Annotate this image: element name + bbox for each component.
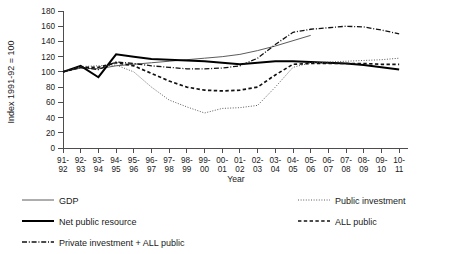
- x-tick-label-top: 93-: [92, 156, 104, 165]
- x-tick-label-top: 94-: [110, 156, 122, 165]
- x-tick-label-bottom: 99: [182, 165, 192, 174]
- legend-item[interactable]: Public investment: [298, 196, 406, 206]
- x-axis-title: Year: [227, 174, 245, 184]
- x-tick-label-bottom: 10: [377, 165, 387, 174]
- x-tick-label-top: 91-: [57, 156, 69, 165]
- legend-item[interactable]: Net public resource: [22, 217, 137, 227]
- legend-label: Private investment + ALL public: [59, 238, 185, 248]
- x-tick-label-top: 06-: [322, 156, 334, 165]
- y-tick-label: 60: [46, 98, 56, 107]
- chart-legend: GDPPublic investmentNet public resourceA…: [22, 196, 406, 248]
- legend-label: ALL public: [335, 217, 377, 227]
- legend-item[interactable]: GDP: [22, 196, 79, 206]
- series-lines: [63, 26, 399, 113]
- x-axis-tick-labels: 91-9292-9393-9494-9595-9696-9797-9898-99…: [57, 156, 405, 174]
- chart-container: Index 1991-92 = 100 02040608010012014016…: [0, 0, 462, 254]
- y-tick-label: 140: [41, 37, 55, 46]
- x-tick-label-top: 99-: [199, 156, 211, 165]
- y-tick-label: 100: [41, 68, 55, 77]
- legend-item[interactable]: ALL public: [298, 217, 377, 227]
- legend-label: Public investment: [335, 196, 406, 206]
- x-tick-label-bottom: 03: [253, 165, 263, 174]
- x-tick-label-bottom: 09: [359, 165, 369, 174]
- x-tick-label-bottom: 05: [288, 165, 298, 174]
- y-tick-label: 80: [46, 83, 56, 92]
- y-axis-ticks: 020406080100120140160180: [41, 7, 63, 153]
- x-tick-label-top: 95-: [128, 156, 140, 165]
- x-tick-label-bottom: 00: [200, 165, 210, 174]
- x-tick-label-bottom: 93: [76, 165, 86, 174]
- x-tick-label-top: 98-: [181, 156, 193, 165]
- y-tick-label: 180: [41, 7, 55, 16]
- y-tick-label: 0: [50, 144, 55, 153]
- x-axis-ticks: [63, 148, 399, 153]
- x-tick-label-bottom: 94: [94, 165, 104, 174]
- x-tick-label-top: 07-: [340, 156, 352, 165]
- x-tick-label-bottom: 01: [218, 165, 228, 174]
- legend-label: Net public resource: [59, 217, 137, 227]
- y-tick-label: 120: [41, 53, 55, 62]
- x-tick-label-bottom: 11: [395, 165, 404, 174]
- series-line-private-investment-all-public: [63, 26, 399, 72]
- x-tick-label-bottom: 97: [147, 165, 157, 174]
- x-tick-label-bottom: 96: [129, 165, 139, 174]
- y-tick-label: 40: [46, 114, 56, 123]
- x-tick-label-bottom: 07: [324, 165, 334, 174]
- x-tick-label-bottom: 98: [165, 165, 175, 174]
- x-tick-label-bottom: 06: [306, 165, 316, 174]
- x-tick-label-top: 09-: [376, 156, 388, 165]
- x-tick-label-top: 01-: [234, 156, 246, 165]
- y-tick-label: 160: [41, 22, 55, 31]
- x-tick-label-top: 97-: [163, 156, 175, 165]
- y-axis-title: Index 1991-92 = 100: [6, 41, 16, 124]
- x-tick-label-bottom: 08: [342, 165, 352, 174]
- x-tick-label-bottom: 04: [271, 165, 281, 174]
- x-tick-label-bottom: 92: [58, 165, 68, 174]
- x-tick-label-top: 10-: [393, 156, 405, 165]
- legend-label: GDP: [59, 196, 79, 206]
- x-tick-label-top: 92-: [75, 156, 87, 165]
- x-tick-label-bottom: 02: [235, 165, 245, 174]
- legend-item[interactable]: Private investment + ALL public: [22, 238, 185, 248]
- x-tick-label-top: 05-: [305, 156, 317, 165]
- x-tick-label-bottom: 95: [112, 165, 122, 174]
- x-tick-label-top: 96-: [146, 156, 158, 165]
- line-chart: Index 1991-92 = 100 02040608010012014016…: [0, 0, 462, 254]
- y-tick-label: 20: [46, 129, 56, 138]
- x-tick-label-top: 08-: [358, 156, 370, 165]
- x-tick-label-top: 04-: [287, 156, 299, 165]
- x-tick-label-top: 03-: [269, 156, 281, 165]
- x-tick-label-top: 02-: [252, 156, 264, 165]
- x-tick-label-top: 00-: [216, 156, 228, 165]
